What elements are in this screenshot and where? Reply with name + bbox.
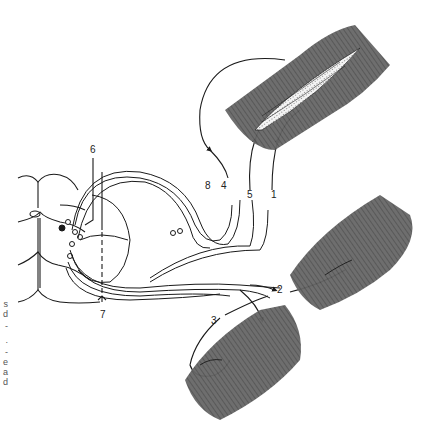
label-4: 4	[221, 181, 227, 191]
margin-text-fragment: d	[0, 310, 8, 319]
margin-text-fragment: e	[0, 358, 8, 367]
muscle-top	[225, 25, 390, 150]
margin-text-fragment: -	[0, 322, 8, 331]
label-7: 7	[100, 310, 106, 320]
reflex-arc-diagram	[0, 0, 436, 431]
margin-text-fragment: d	[0, 378, 8, 387]
label-6: 6	[90, 145, 96, 155]
muscle-bottom	[185, 305, 301, 420]
margin-text-fragment: s	[0, 300, 8, 309]
label-2: 2	[277, 285, 283, 295]
ganglion	[78, 195, 130, 283]
neuron-cell-bodies	[59, 220, 183, 259]
muscle-middle	[290, 195, 413, 310]
margin-text-fragment: a	[0, 368, 8, 377]
label-8: 8	[205, 181, 211, 191]
label-3: 3	[211, 316, 217, 326]
label-lines	[85, 158, 106, 302]
label-1: 1	[271, 190, 277, 200]
margin-text-fragment: .	[0, 336, 8, 345]
label-5: 5	[247, 190, 253, 200]
margin-text-fragment: -	[0, 348, 8, 357]
